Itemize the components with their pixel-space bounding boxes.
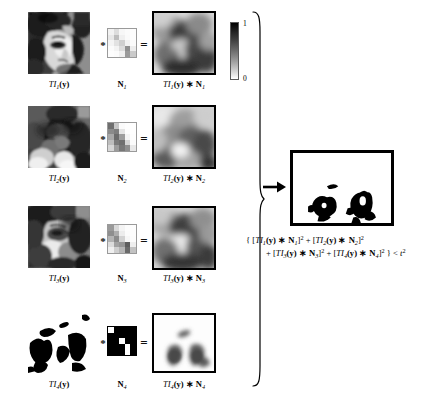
equals-operator-row-1: = [138,38,150,51]
convolved-result-2 [152,105,216,169]
kernel-matrix-1 [107,28,137,58]
source-image-3 [28,206,90,268]
caption-result-1: TI1(y) ∗ N1 [146,80,222,89]
equals-operator-row-2: = [138,132,150,145]
figure-root: * = TI1(y) [0,0,444,405]
caption-source-3: TI3(y) [28,274,90,283]
caption-result-2: TI2(y) ∗ N2 [146,174,222,183]
caption-result-3: TI3(y) ∗ N3 [146,274,222,283]
caption-source-4: TI4(y) [28,380,90,389]
caption-kernel-3: N3 [102,274,142,283]
implies-arrow [263,180,287,194]
caption-result-4: TI4(y) ∗ N4 [146,380,222,389]
equals-operator-row-4: = [138,336,150,349]
colorbar-min-label: 0 [243,75,247,83]
threshold-equation: { [TI1(y) ∗ N1]2 + [TI2(y) ∗ N2]2 + [TI3… [246,234,442,261]
convolved-result-1 [152,11,216,75]
caption-source-2: TI2(y) [28,174,90,183]
colorbar-max-label: 1 [243,20,247,28]
caption-kernel-2: N2 [102,174,142,183]
kernel-matrix-4 [107,326,137,356]
kernel-matrix-3 [107,224,137,254]
colorbar-gradient [230,22,239,80]
convolved-result-3 [152,206,216,270]
source-image-2 [28,106,90,168]
caption-kernel-4: N4 [102,380,142,389]
caption-kernel-1: N1 [102,80,142,89]
equals-operator-row-3: = [138,234,150,247]
kernel-matrix-2 [107,122,137,152]
source-image-1 [28,12,90,74]
final-segmentation-result [290,150,394,226]
equation-line-2: + [TI3(y) ∗ N3]2 + [TI4(y) ∗ N4]2 } < t2 [246,247,442,260]
equation-line-1: { [TI1(y) ∗ N1]2 + [TI2(y) ∗ N2]2 [246,234,442,247]
convolved-result-4 [152,313,216,373]
source-image-4 [28,313,90,373]
caption-source-1: TI1(y) [28,80,90,89]
grouping-brace [250,10,266,388]
